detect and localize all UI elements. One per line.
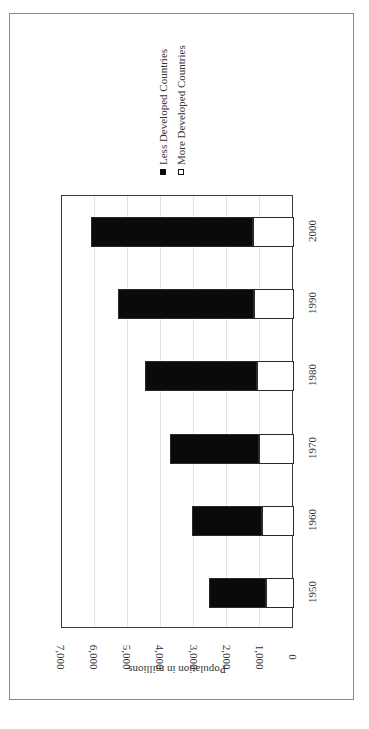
bar-1960 [62, 506, 294, 536]
bar-segment-more-developed [262, 506, 294, 536]
bar-1970 [62, 434, 294, 464]
category-tick-label: 1960 [305, 500, 319, 540]
gridline [259, 196, 260, 627]
legend-label: More Developed Countries [175, 45, 187, 165]
gridline [226, 196, 227, 627]
bar-segment-less-developed [209, 578, 266, 608]
bar-segment-less-developed [170, 434, 259, 464]
gridline [160, 196, 161, 627]
category-tick-label: 2000 [305, 211, 319, 251]
category-tick-label: 1970 [305, 428, 319, 468]
bar-segment-less-developed [118, 289, 255, 319]
legend-item-mdc: More Developed Countries [172, 25, 190, 175]
gridline [94, 196, 95, 627]
bar-segment-more-developed [253, 217, 294, 247]
bar-segment-less-developed [145, 361, 257, 391]
bar-1950 [62, 578, 294, 608]
bar-1990 [62, 289, 294, 319]
value-axis-title: Population in millions [102, 662, 252, 678]
bar-segment-more-developed [266, 578, 294, 608]
bar-segment-more-developed [254, 289, 294, 319]
category-tick-label: 1980 [305, 355, 319, 395]
legend-label: Less Developed Countries [157, 49, 169, 165]
value-tick-label: 6,000 [87, 637, 101, 677]
bar-segment-less-developed [91, 217, 253, 247]
bar-2000 [62, 217, 294, 247]
legend-swatch-hollow-icon [178, 169, 184, 175]
value-tick-label: 0 [286, 637, 300, 677]
bar-1980 [62, 361, 294, 391]
value-tick-label: 1,000 [253, 637, 267, 677]
bar-segment-more-developed [257, 361, 294, 391]
legend: Less Developed Countries More Developed … [154, 25, 190, 175]
legend-item-ldc: Less Developed Countries [154, 25, 172, 175]
value-tick-label: 7,000 [54, 637, 68, 677]
category-tick-label: 1990 [305, 283, 319, 323]
bar-segment-more-developed [259, 434, 294, 464]
category-tick-label: 1950 [305, 572, 319, 612]
legend-swatch-filled-icon [160, 169, 166, 175]
gridline [127, 196, 128, 627]
gridline [193, 196, 194, 627]
plot-area [61, 195, 293, 628]
bar-segment-less-developed [192, 506, 262, 536]
